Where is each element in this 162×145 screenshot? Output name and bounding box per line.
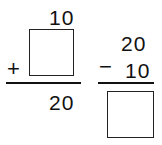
sum-line xyxy=(6,82,81,84)
subtrahend: 10 xyxy=(125,60,150,81)
minus-sign-icon: − xyxy=(99,56,112,78)
answer-box-difference[interactable] xyxy=(107,91,154,138)
answer-box-missing-addend[interactable] xyxy=(29,29,74,76)
addend-top: 10 xyxy=(49,7,74,28)
plus-sign-icon: + xyxy=(7,58,20,80)
difference-line xyxy=(98,82,154,84)
sum-value: 20 xyxy=(49,92,74,113)
minuend: 20 xyxy=(121,33,146,54)
